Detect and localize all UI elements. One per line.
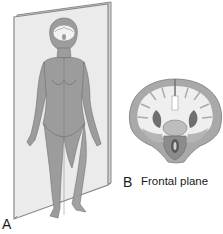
panel-label-b: B <box>123 174 132 190</box>
anatomy-figure <box>0 0 223 234</box>
coronal-brain-section-panel-b <box>129 79 221 163</box>
panel-label-a: A <box>2 216 11 232</box>
panel-b-caption: Frontal plane <box>141 175 208 187</box>
head-brain-section <box>53 25 75 41</box>
